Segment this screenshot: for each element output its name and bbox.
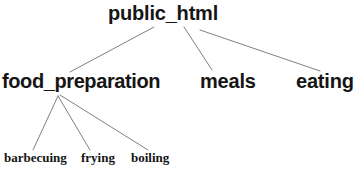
tree-node-food-preparation: food_preparation	[2, 71, 160, 91]
tree-node-eating: eating	[296, 71, 354, 91]
edge-root-to-meals	[184, 27, 212, 70]
tree-node-boiling: boiling	[131, 151, 169, 164]
edge-food-preparation-to-frying	[58, 96, 90, 150]
tree-node-frying: frying	[81, 151, 115, 164]
edge-root-to-eating	[200, 30, 320, 71]
edge-food-preparation-to-barbecuing	[33, 96, 58, 150]
edge-root-to-food-preparation	[70, 27, 154, 72]
edge-food-preparation-to-boiling	[60, 95, 148, 150]
tree-node-barbecuing: barbecuing	[4, 151, 67, 164]
tree-node-meals: meals	[200, 71, 256, 91]
tree-node-public-html: public_html	[108, 3, 218, 23]
directory-tree-diagram: public_html food_preparation meals eatin…	[0, 0, 357, 176]
